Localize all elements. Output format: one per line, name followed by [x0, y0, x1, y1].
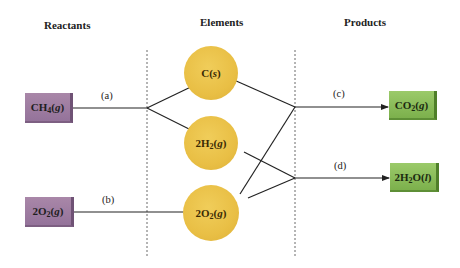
- step-label-c: (c): [333, 88, 345, 99]
- step-label-d: (d): [334, 160, 346, 171]
- element-h2-circle: 2H2(g): [184, 116, 238, 170]
- element-h2-label: 2H2(g): [196, 137, 227, 149]
- element-c-circle: C(s): [184, 46, 238, 100]
- reactant-o2-box: 2O2(g): [25, 197, 74, 227]
- product-co2-box: CO2(g): [389, 91, 437, 120]
- product-co2-label: CO2(g): [395, 99, 428, 111]
- reactant-ch4-box: CH4(g): [25, 93, 73, 123]
- step-label-a: (a): [101, 90, 113, 101]
- reactant-o2-label: 2O2(g): [33, 205, 64, 217]
- product-h2o-box: 2H2O(l): [390, 163, 439, 192]
- element-c-label: C(s): [201, 67, 221, 79]
- reactant-ch4-label: CH4(g): [31, 101, 64, 113]
- element-o2-circle: 2O2(g): [183, 185, 239, 241]
- element-o2-label: 2O2(g): [196, 207, 227, 219]
- product-h2o-label: 2H2O(l): [394, 171, 431, 183]
- step-label-b: (b): [102, 194, 114, 205]
